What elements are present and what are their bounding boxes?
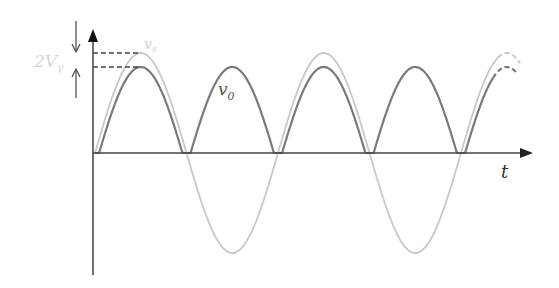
voltage-axis-arrowhead (88, 29, 98, 42)
vo-pulse (370, 67, 461, 153)
vs-label: vs (144, 36, 157, 54)
vo-waveform (95, 67, 517, 153)
time-axis-arrowhead (520, 148, 533, 158)
time-axis-label: t (501, 161, 509, 182)
vo-pulse-dashed-tail (493, 67, 517, 78)
drop-label: 2Vγ (33, 51, 64, 74)
rectifier-waveform-diagram: 2Vγ vs v0 t (0, 0, 559, 288)
vs-waveform-dashed-tail (498, 53, 520, 63)
vo-label: v0 (218, 79, 235, 103)
vo-pulse (461, 78, 493, 153)
vo-pulse (187, 67, 278, 153)
